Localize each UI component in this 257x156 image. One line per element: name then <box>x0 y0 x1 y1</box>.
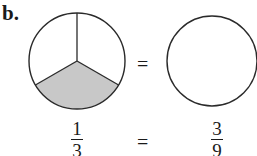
left-circle-thirds <box>29 13 125 109</box>
equals-sign-bottom: = <box>137 132 148 152</box>
left-denominator: 3 <box>62 141 92 156</box>
right-numerator: 3 <box>202 119 232 138</box>
right-fraction: 3 9 <box>202 119 232 156</box>
right-denominator: 9 <box>202 141 232 156</box>
right-circle-blank <box>167 16 257 106</box>
shaded-third <box>35 61 118 109</box>
left-fraction: 1 3 <box>62 119 92 156</box>
left-numerator: 1 <box>62 119 92 138</box>
equals-sign-top: = <box>137 54 148 74</box>
